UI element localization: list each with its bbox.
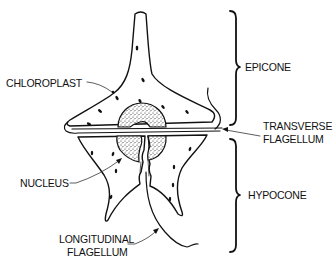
transverse-leader	[226, 130, 260, 136]
epicone-brace	[230, 11, 240, 125]
longitudinal-label-line1: LONGITUDINAL	[59, 233, 135, 245]
chloroplast-leader-dot	[112, 91, 115, 94]
epicone-label: EPICONE	[245, 61, 291, 73]
chloroplast-label: CHLOROPLAST	[6, 77, 83, 89]
transverse-label-line1: TRANSVERSE	[263, 120, 332, 132]
hypocone-brace	[230, 139, 240, 252]
transverse-arrowhead	[222, 127, 228, 132]
chloroplast-leader	[87, 82, 112, 92]
transverse-flagellum	[207, 88, 220, 129]
transverse-label-line2: FLAGELLUM	[263, 133, 324, 145]
cingulum-lower	[72, 128, 222, 129]
longitudinal-label-line2: FLAGELLUM	[67, 246, 128, 258]
nucleus-label: NUCLEUS	[20, 177, 69, 189]
dinoflagellate-diagram: CHLOROPLAST NUCLEUS LONGITUDINAL FLAGELL…	[0, 0, 334, 267]
hypocone-label: HYPOCONE	[248, 189, 307, 201]
